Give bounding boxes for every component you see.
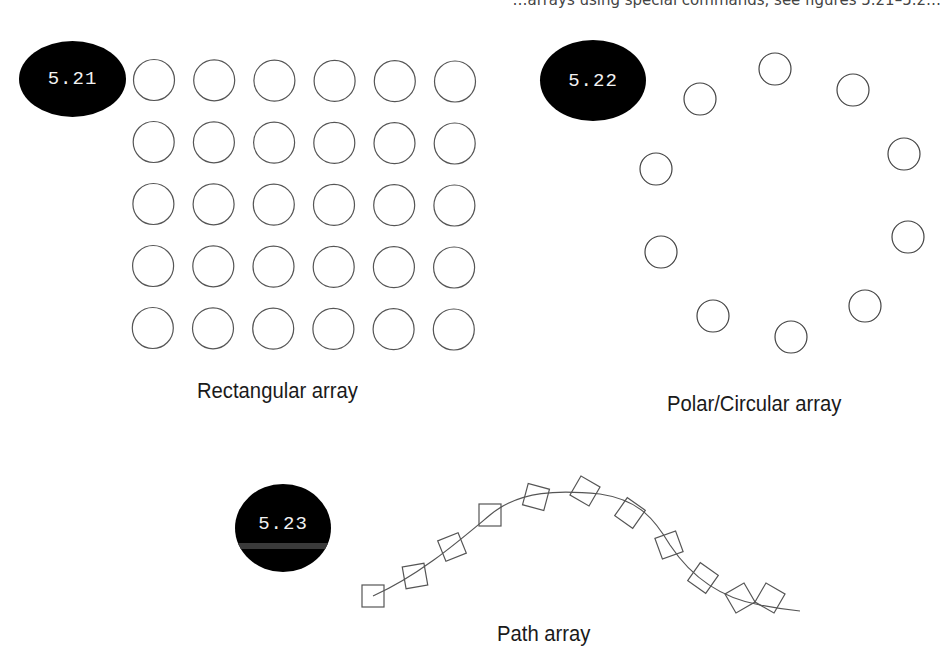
array-circle [684,83,716,115]
caption-polar-array: Polar/Circular array [667,391,841,417]
array-circle [374,185,415,226]
array-circle [434,247,475,288]
array-circle [133,184,174,225]
array-circle [373,247,414,288]
array-circle [374,123,415,164]
path-array [362,476,800,613]
array-circle [254,60,295,101]
array-circle [193,246,234,287]
polar-array [640,53,924,353]
array-circle [888,138,920,170]
array-square [570,476,600,506]
array-circle [194,60,235,101]
array-circle [133,122,174,163]
array-circle [892,221,924,253]
array-circle [253,184,294,225]
array-circle [434,123,475,164]
array-circle [253,308,294,349]
array-circle [775,321,807,353]
array-circle [314,122,355,163]
array-square [725,583,755,613]
caption-path-array: Path array [497,621,590,647]
array-circle [433,309,474,350]
array-circle [254,122,295,163]
array-circle [645,236,677,268]
array-circle [849,290,881,322]
array-figures-canvas [0,0,941,659]
array-circle [373,309,414,350]
path-curve [373,492,800,611]
array-circle [134,60,175,101]
array-circle [314,60,355,101]
array-circle [193,184,234,225]
array-square [688,563,719,594]
array-circle [132,308,173,349]
array-circle [837,74,869,106]
array-circle [313,308,354,349]
array-square [615,498,646,529]
array-circle [640,153,672,185]
array-circle [759,53,791,85]
array-circle [374,61,415,102]
array-circle [697,300,729,332]
array-circle [313,246,354,287]
array-circle [253,246,294,287]
array-circle [193,122,234,163]
caption-rectangular-array: Rectangular array [197,378,358,404]
array-circle [435,61,476,102]
array-circle [314,184,355,225]
array-square [655,531,683,559]
rectangular-array [132,60,475,351]
array-circle [133,246,174,287]
array-circle [193,308,234,349]
array-square [438,533,467,562]
array-circle [434,185,475,226]
